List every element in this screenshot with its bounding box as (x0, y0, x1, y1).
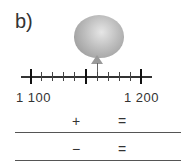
exercise-label: b) (15, 10, 33, 32)
balloon-icon (74, 15, 124, 58)
equals-sign: = (118, 141, 126, 157)
tick-minor (108, 72, 109, 81)
tick-minor (119, 72, 120, 81)
tick-minor (130, 72, 131, 81)
tick-major (140, 69, 142, 84)
tick-minor (41, 72, 42, 81)
tick-minor (74, 72, 75, 81)
plus-sign: + (72, 113, 80, 129)
answer-line[interactable] (15, 132, 181, 133)
start-label: 1 100 (16, 90, 51, 105)
minus-sign: − (72, 141, 80, 157)
tick-minor (52, 72, 53, 81)
answer-line[interactable] (15, 160, 181, 161)
tick-major (85, 69, 87, 84)
end-label: 1 200 (124, 90, 159, 105)
tick-major (30, 69, 32, 84)
tick-minor (63, 72, 64, 81)
tick-minor (97, 72, 98, 81)
equals-sign: = (118, 113, 126, 129)
